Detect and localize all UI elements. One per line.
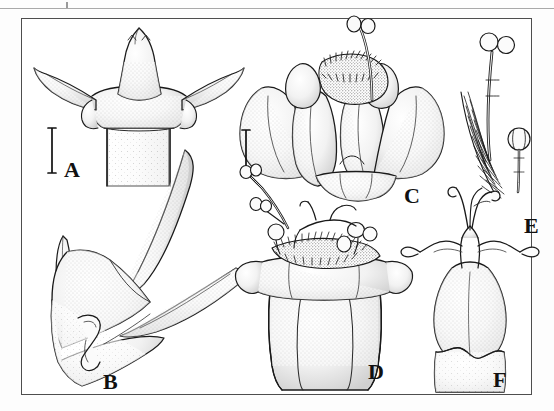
panel-label-c: C xyxy=(404,185,420,207)
panel-label-e: E xyxy=(524,215,539,237)
panel-label-b: B xyxy=(103,371,118,393)
panel-label-f: F xyxy=(493,369,506,391)
scale-bar-a xyxy=(48,128,56,173)
panel-label-a: A xyxy=(64,159,80,181)
panel-e-drawing xyxy=(461,33,530,198)
illustration-canvas xyxy=(0,0,554,411)
figure-plate: A B C D E F xyxy=(0,0,554,411)
panel-f-drawing xyxy=(401,187,539,392)
panel-label-d: D xyxy=(368,361,384,383)
panel-d-drawing xyxy=(235,164,412,390)
